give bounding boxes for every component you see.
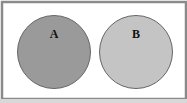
venn-diagram: A B (0, 0, 187, 103)
set-b-label: B (132, 27, 140, 41)
venn-canvas: A B (0, 0, 187, 103)
frame-bottom-shadow (0, 99, 187, 103)
set-a-label: A (50, 27, 59, 41)
